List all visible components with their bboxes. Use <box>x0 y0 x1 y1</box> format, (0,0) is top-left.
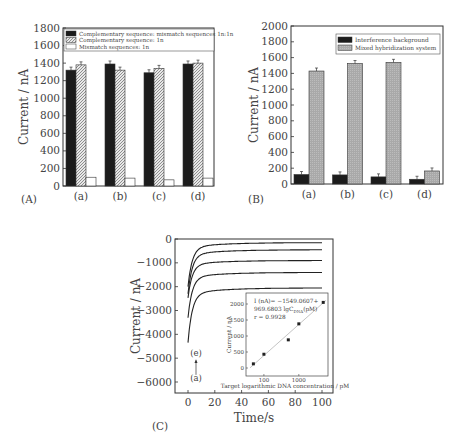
bar <box>386 62 401 184</box>
bar <box>115 70 125 186</box>
legend-entry: Mismatch sequences: 1n <box>79 44 150 51</box>
x-category-label: (d) <box>417 188 432 200</box>
bar <box>371 177 386 184</box>
y-tick-label: 200 <box>40 162 60 174</box>
y-tick-label: 1000 <box>33 92 60 104</box>
y-tick-label: 400 <box>268 146 288 158</box>
bar <box>183 64 193 186</box>
y-tick-label: 1200 <box>33 74 60 86</box>
legend-entry: Mixed hybridization system <box>355 45 437 52</box>
y-tick-label: 600 <box>268 130 288 142</box>
panel-label-a: (A) <box>21 193 37 205</box>
x-category-label: (c) <box>152 190 166 202</box>
y-tick-label: 1400 <box>261 67 288 79</box>
bar <box>425 171 440 184</box>
current-trace <box>188 243 322 287</box>
bar <box>144 73 154 186</box>
inset-y-label: Current / nA <box>226 315 232 353</box>
y-tick-label: 1800 <box>33 22 60 34</box>
inset-calibration-plot: 05001000150020001001000Target logarithmi… <box>221 293 350 390</box>
y-tick-label: −6000 <box>136 376 172 388</box>
y-tick-label: 600 <box>40 127 60 139</box>
y-tick-label: 1200 <box>261 83 288 95</box>
panel-a-bar-chart: 020040060080010001200140016001800Current… <box>17 22 234 206</box>
x-category-label: (b) <box>340 188 355 200</box>
bar <box>294 175 309 184</box>
bar <box>164 180 174 186</box>
y-tick-label: 0 <box>165 233 172 245</box>
inset-y-tick: 2000 <box>230 301 244 307</box>
x-category-label: (c) <box>379 188 393 200</box>
y-tick-label: 800 <box>40 109 60 121</box>
y-tick-label: 1400 <box>33 57 60 69</box>
bar <box>348 64 363 184</box>
x-category-label: (a) <box>302 188 316 200</box>
x-tick-label: 20 <box>208 396 221 408</box>
y-axis-label: Current / nA <box>129 278 143 354</box>
y-tick-label: 2000 <box>261 20 288 32</box>
fit-equation-line1: I (nA)= −1549.0607+ <box>254 298 318 304</box>
bar <box>86 177 96 186</box>
y-axis-label: Current / nA <box>17 69 31 145</box>
y-tick-label: 800 <box>268 114 288 126</box>
bar <box>154 68 164 186</box>
legend: Complementary sequence: mismatch sequenc… <box>64 29 234 51</box>
correlation-coefficient: r = 0.9928 <box>254 314 286 320</box>
bar <box>125 178 135 186</box>
bar <box>105 64 115 186</box>
data-point <box>262 353 265 356</box>
x-tick-label: 80 <box>289 396 302 408</box>
panel-c-line-chart: 0−1000−2000−3000−4000−5000−6000020406080… <box>129 233 349 433</box>
bar <box>410 179 425 184</box>
inset-y-tick: 0 <box>241 365 245 371</box>
figure: 020040060080010001200140016001800Current… <box>0 0 460 439</box>
y-tick-label: 400 <box>40 144 60 156</box>
y-tick-label: 200 <box>268 162 288 174</box>
x-tick-label: 40 <box>235 396 248 408</box>
x-axis-label: Time/s <box>234 411 275 425</box>
y-axis-label: Current / nA <box>247 67 261 143</box>
data-point <box>252 362 255 365</box>
data-point <box>297 322 300 325</box>
inset-y-tick: 500 <box>234 349 245 355</box>
current-trace <box>188 250 322 294</box>
x-tick-label: 100 <box>312 396 332 408</box>
y-tick-label: 1000 <box>261 99 288 111</box>
x-category-label: (a) <box>74 190 88 202</box>
y-tick-label: 1600 <box>33 39 60 51</box>
x-tick-label: 0 <box>185 396 192 408</box>
data-point <box>287 338 290 341</box>
bar <box>203 178 213 186</box>
y-tick-label: 1600 <box>261 51 288 63</box>
bar <box>309 71 324 184</box>
bar <box>193 63 203 186</box>
x-category-label: (d) <box>191 190 206 202</box>
bar <box>333 175 348 184</box>
x-tick-label: 60 <box>262 396 275 408</box>
inset-x-label: Target logarithmic DNA concentration / p… <box>221 383 350 390</box>
bar <box>76 65 86 186</box>
annotation-e: (e) <box>190 348 202 358</box>
panel-label-b: (B) <box>248 193 264 205</box>
legend: Interference backgroundMixed hybridizati… <box>336 34 440 54</box>
y-tick-label: 0 <box>281 178 288 190</box>
panel-b-bar-chart: 0200400600800100012001400160018002000Cur… <box>247 20 443 206</box>
panel-label-c: (C) <box>152 420 168 432</box>
y-tick-label: 0 <box>53 180 60 192</box>
inset-y-tick: 1000 <box>230 333 244 339</box>
inset-y-tick: 1500 <box>230 317 244 323</box>
data-point <box>322 301 325 304</box>
bar <box>66 70 76 186</box>
x-category-label: (b) <box>113 190 128 202</box>
y-tick-label: 1800 <box>261 35 288 47</box>
current-trace <box>188 261 322 298</box>
y-tick-label: −1000 <box>136 256 172 268</box>
annotation-a: (a) <box>190 373 202 383</box>
legend-entry: Interference background <box>355 37 429 44</box>
